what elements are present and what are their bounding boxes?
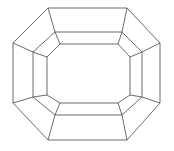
octagon-wireframe-figure <box>0 0 174 151</box>
figure-background <box>0 0 174 151</box>
